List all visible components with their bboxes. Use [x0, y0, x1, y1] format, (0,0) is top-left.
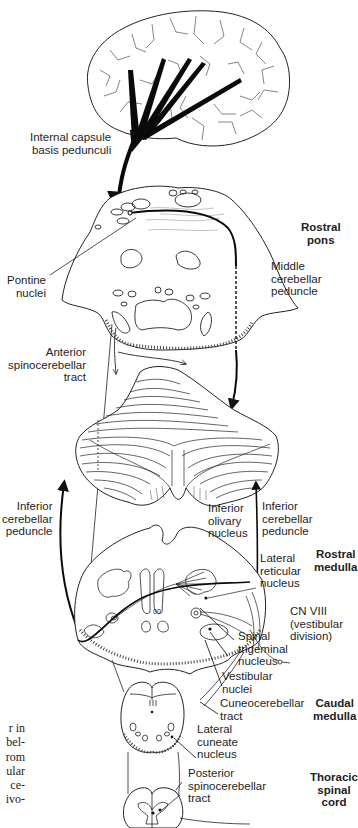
label-lateral-cuneate-nucleus: Lateral cuneate nucleus	[197, 723, 238, 761]
cerebral-cortex	[87, 11, 289, 206]
svg-text:00: 00	[153, 608, 161, 615]
label-lateral-reticular-nucleus: Lateral reticular nucleus	[260, 552, 301, 590]
label-cn-viii: CN VIII (vestibular division)	[290, 605, 343, 643]
label-vestibular-nuclei: Vestibular nuclei	[222, 670, 273, 695]
level-thoracic-spinal-cord: Thoracic spinal cord	[310, 771, 358, 809]
label-inferior-cerebellar-peduncle-left: Inferior cerebellar peduncle	[2, 500, 53, 538]
label-spinal-trigeminal-nucleus: Spinal trigeminal nucleus	[238, 630, 288, 668]
adjacent-text-fragment: r in bel- rom ular ce- ivo-	[0, 721, 25, 807]
label-inferior-cerebellar-peduncle-right: Inferior cerebellar peduncle	[262, 500, 313, 538]
level-rostral-medulla: Rostral medulla	[314, 548, 357, 573]
level-caudal-medulla: Caudal medulla	[313, 697, 356, 722]
label-middle-cerebellar-peduncle: Middle cerebellar peduncle	[271, 260, 322, 298]
label-anterior-spinocerebellar-tract: Anterior spinocerebellar tract	[8, 346, 86, 384]
label-inferior-olivary-nucleus: Inferior olivary nucleus	[208, 502, 248, 540]
label-pontine-nuclei: Pontine nuclei	[7, 274, 46, 299]
label-internal-capsule: Internal capsule basis pedunculi	[30, 131, 111, 156]
level-rostral-pons: Rostral pons	[301, 221, 341, 246]
label-cuneocerebellar-tract: Cuneocerebellar tract	[220, 697, 304, 722]
label-posterior-spinocerebellar-tract: Posterior spinocerebellar tract	[188, 767, 266, 805]
